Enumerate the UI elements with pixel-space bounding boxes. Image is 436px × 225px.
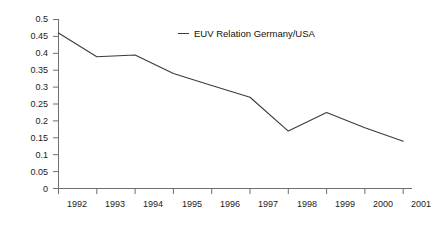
y-axis-ticks [53,20,59,189]
y-tick-label: 0.35 [18,65,48,75]
x-tick-label: 1997 [248,199,288,209]
y-tick-label: 0.15 [18,133,48,143]
legend-line-icon [178,33,189,34]
x-tick-label: 1996 [210,199,250,209]
x-tick-label: 1998 [287,199,327,209]
y-tick-label: 0.1 [18,150,48,160]
y-tick-label: 0.25 [18,99,48,109]
chart-legend: EUV Relation Germany/USA [178,28,315,39]
y-tick-label: 0 [18,184,48,194]
x-tick-label: 1995 [172,199,212,209]
x-tick-label: 1994 [133,199,173,209]
y-tick-label: 0.2 [18,116,48,126]
x-tick-label: 1993 [95,199,135,209]
y-tick-label: 0.05 [18,167,48,177]
legend-entry-label: EUV Relation Germany/USA [194,28,315,39]
x-tick-label: 2000 [363,199,403,209]
x-axis-ticks [59,189,404,195]
y-tick-label: 0.5 [18,14,48,24]
data-series-line [59,33,404,141]
x-tick-label: 1999 [325,199,365,209]
x-tick-label: 2001 [401,199,436,209]
y-tick-label: 0.4 [18,48,48,58]
y-tick-label: 0.3 [18,82,48,92]
x-tick-label: 1992 [57,199,97,209]
y-tick-label: 0.45 [18,31,48,41]
